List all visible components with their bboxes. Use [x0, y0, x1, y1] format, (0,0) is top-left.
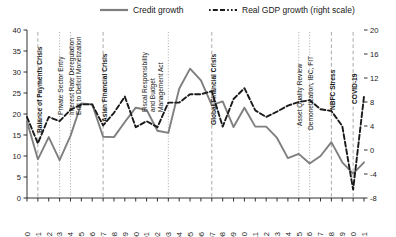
y-axis-right-tick-label: 20: [370, 26, 378, 35]
x-axis-tick-label: 12: [262, 232, 271, 237]
x-axis-tick-label: 10: [240, 232, 249, 237]
x-axis-tick-label: 11: [251, 232, 260, 237]
x-axis-tick-label: 13: [273, 232, 282, 237]
event-annotation-label: COVID-19: [351, 73, 358, 104]
x-axis-tick-label: 04: [175, 232, 184, 237]
event-annotations: Balance of Payments CrisisPrivate Sector…: [36, 36, 358, 133]
y-axis-left-tick-label: 25: [13, 89, 21, 98]
x-axis-tick-label: 05: [186, 232, 195, 237]
chart-container: Credit growthReal GDP growth (right scal…: [0, 0, 396, 237]
x-axis-tick-label: 98: [110, 232, 119, 237]
event-annotation-label: Private Sector Entry: [57, 56, 65, 115]
event-annotation-label: Asian Financial Crisis: [101, 53, 108, 122]
x-axis-tick-label: 08: [218, 232, 227, 237]
x-axis-tick-label: 16: [305, 232, 314, 237]
x-axis-tick-label: 14: [284, 232, 293, 237]
y-axis-left-tick-label: 5: [17, 173, 21, 182]
x-axis-tick-label: 94: [66, 232, 75, 237]
x-axis-tick-label: 92: [45, 232, 54, 237]
event-annotation-label: End to Deficit Monetization: [75, 36, 82, 115]
x-axis-tick-label: 20: [349, 232, 358, 237]
x-axis-tick-label: 09: [229, 232, 238, 237]
event-annotation-label: Management Act: [157, 62, 165, 112]
y-axis-right-tick-label: 12: [370, 74, 378, 83]
x-axis-tick-label: 21: [360, 232, 369, 237]
x-axis-tick-label: 17: [316, 232, 325, 237]
x-axis-tick-label: 91: [34, 232, 43, 237]
x-axis-tick-label: 19: [338, 232, 347, 237]
x-axis-tick-label: 2000: [132, 232, 141, 237]
y-axis-left-tick-label: 40: [13, 26, 21, 35]
y-axis-left-tick-label: 20: [13, 110, 21, 119]
x-axis-tick-label: 1990: [23, 232, 32, 237]
x-axis-tick-label: 07: [208, 232, 217, 237]
x-axis-tick-label: 18: [327, 232, 336, 237]
credit-and-gdp-growth-chart: Credit growthReal GDP growth (right scal…: [0, 0, 396, 237]
y-axis-right-tick-label: 8: [370, 98, 374, 107]
y-axis-right-tick-label: -4: [370, 170, 377, 179]
event-annotation-label: NBFC Stress: [329, 69, 336, 110]
x-axis-tick-label: 97: [99, 232, 108, 237]
legend-label-credit-growth: Credit growth: [133, 5, 184, 15]
x-axis-tick-label: 95: [77, 232, 86, 237]
legend-label-real-gdp-growth: Real GDP growth (right scale): [242, 5, 355, 15]
x-axis-tick-label: 93: [55, 232, 64, 237]
x-axis-tick-label: 06: [197, 232, 206, 237]
y-axis-left-tick-label: 30: [13, 68, 21, 77]
x-axis-tick-label: 15: [295, 232, 304, 237]
y-axis-right-tick-label: 0: [370, 146, 374, 155]
event-annotation-label: Demonetization, IBC, FIT: [307, 56, 314, 130]
y-axis-left-tick-label: 35: [13, 47, 21, 56]
x-axis-tick-label: 99: [121, 232, 130, 237]
event-annotation-label: Balance of Payments Crisis: [36, 46, 44, 133]
y-axis-right-tick-label: 4: [370, 122, 374, 131]
x-axis-tick-label: 03: [164, 232, 173, 237]
y-axis-left-tick-label: 10: [13, 152, 21, 161]
event-annotation-label: Asset Quality Review: [296, 63, 304, 126]
y-axis-right-tick-label: -8: [370, 194, 377, 203]
y-axis-left-tick-label: 0: [17, 194, 21, 203]
x-axis-tick-label: 02: [153, 232, 162, 237]
event-marker-lines: [38, 32, 353, 198]
x-axis-tick-label: 01: [142, 232, 151, 237]
x-axis-tick-label: 96: [88, 232, 97, 237]
event-annotation-label: Global Financial Crisis: [210, 54, 217, 125]
y-axis-left-tick-label: 15: [13, 131, 21, 140]
y-axis-right-tick-label: 16: [370, 50, 378, 59]
chart-legend: Credit growthReal GDP growth (right scal…: [100, 5, 355, 15]
